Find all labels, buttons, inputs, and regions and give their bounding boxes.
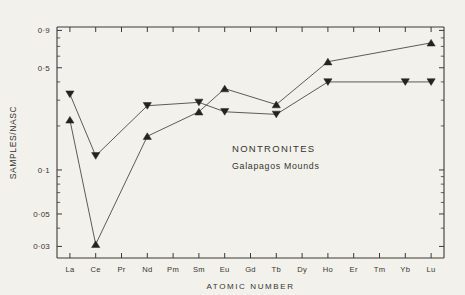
ree-spider-diagram: 0·90·50·10·050·03LaCePrNdPmSmEuGdTbDyHoE… (0, 0, 465, 295)
y-tick-label: 0·03 (33, 242, 50, 251)
data-point-lower (66, 116, 74, 123)
x-tick-label-tm: Tm (374, 265, 386, 274)
y-tick-label: 0·1 (38, 166, 51, 175)
x-tick-label-ce: Ce (91, 265, 101, 274)
annotation-subtitle: Galapagos Mounds (232, 161, 320, 171)
x-tick-label-er: Er (350, 265, 358, 274)
y-axis-title: SAMPLES/NASC (8, 106, 18, 179)
data-point-upper (92, 153, 100, 160)
data-point-lower (221, 85, 229, 92)
x-tick-label-la: La (65, 265, 75, 274)
y-tick-label: 0·9 (38, 26, 51, 35)
x-tick-label-eu: Eu (220, 265, 230, 274)
x-axis-title: ATOMIC NUMBER (206, 282, 294, 291)
data-point-lower (92, 241, 100, 248)
x-tick-label-pr: Pr (117, 265, 125, 274)
x-tick-label-ho: Ho (323, 265, 333, 274)
y-tick-label: 0·5 (38, 64, 51, 73)
x-tick-label-nd: Nd (142, 265, 152, 274)
data-point-lower (143, 133, 151, 140)
annotation-title: NONTRONITES (232, 143, 315, 154)
data-point-upper (66, 91, 74, 98)
x-tick-label-tb: Tb (272, 265, 281, 274)
y-tick-label: 0·05 (33, 210, 50, 219)
x-tick-label-gd: Gd (245, 265, 256, 274)
figure-container: 0·90·50·10·050·03LaCePrNdPmSmEuGdTbDyHoE… (0, 0, 465, 295)
x-tick-label-sm: Sm (193, 265, 205, 274)
x-tick-label-pm: Pm (167, 265, 179, 274)
x-tick-label-dy: Dy (297, 265, 307, 274)
data-point-lower (427, 39, 435, 46)
x-tick-label-lu: Lu (427, 265, 436, 274)
x-tick-label-yb: Yb (400, 265, 410, 274)
